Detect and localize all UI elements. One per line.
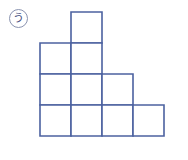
unit-square-cell [71,105,102,136]
step-figure-diagram: う [0,0,188,160]
unit-square-cells [40,12,164,136]
unit-square-grid [0,0,188,160]
unit-square-cell [133,105,164,136]
unit-square-cell [71,12,102,43]
unit-square-cell [71,43,102,74]
unit-square-cell [102,105,133,136]
unit-square-cell [102,74,133,105]
unit-square-cell [40,105,71,136]
unit-square-cell [71,74,102,105]
unit-square-cell [40,74,71,105]
unit-square-cell [40,43,71,74]
